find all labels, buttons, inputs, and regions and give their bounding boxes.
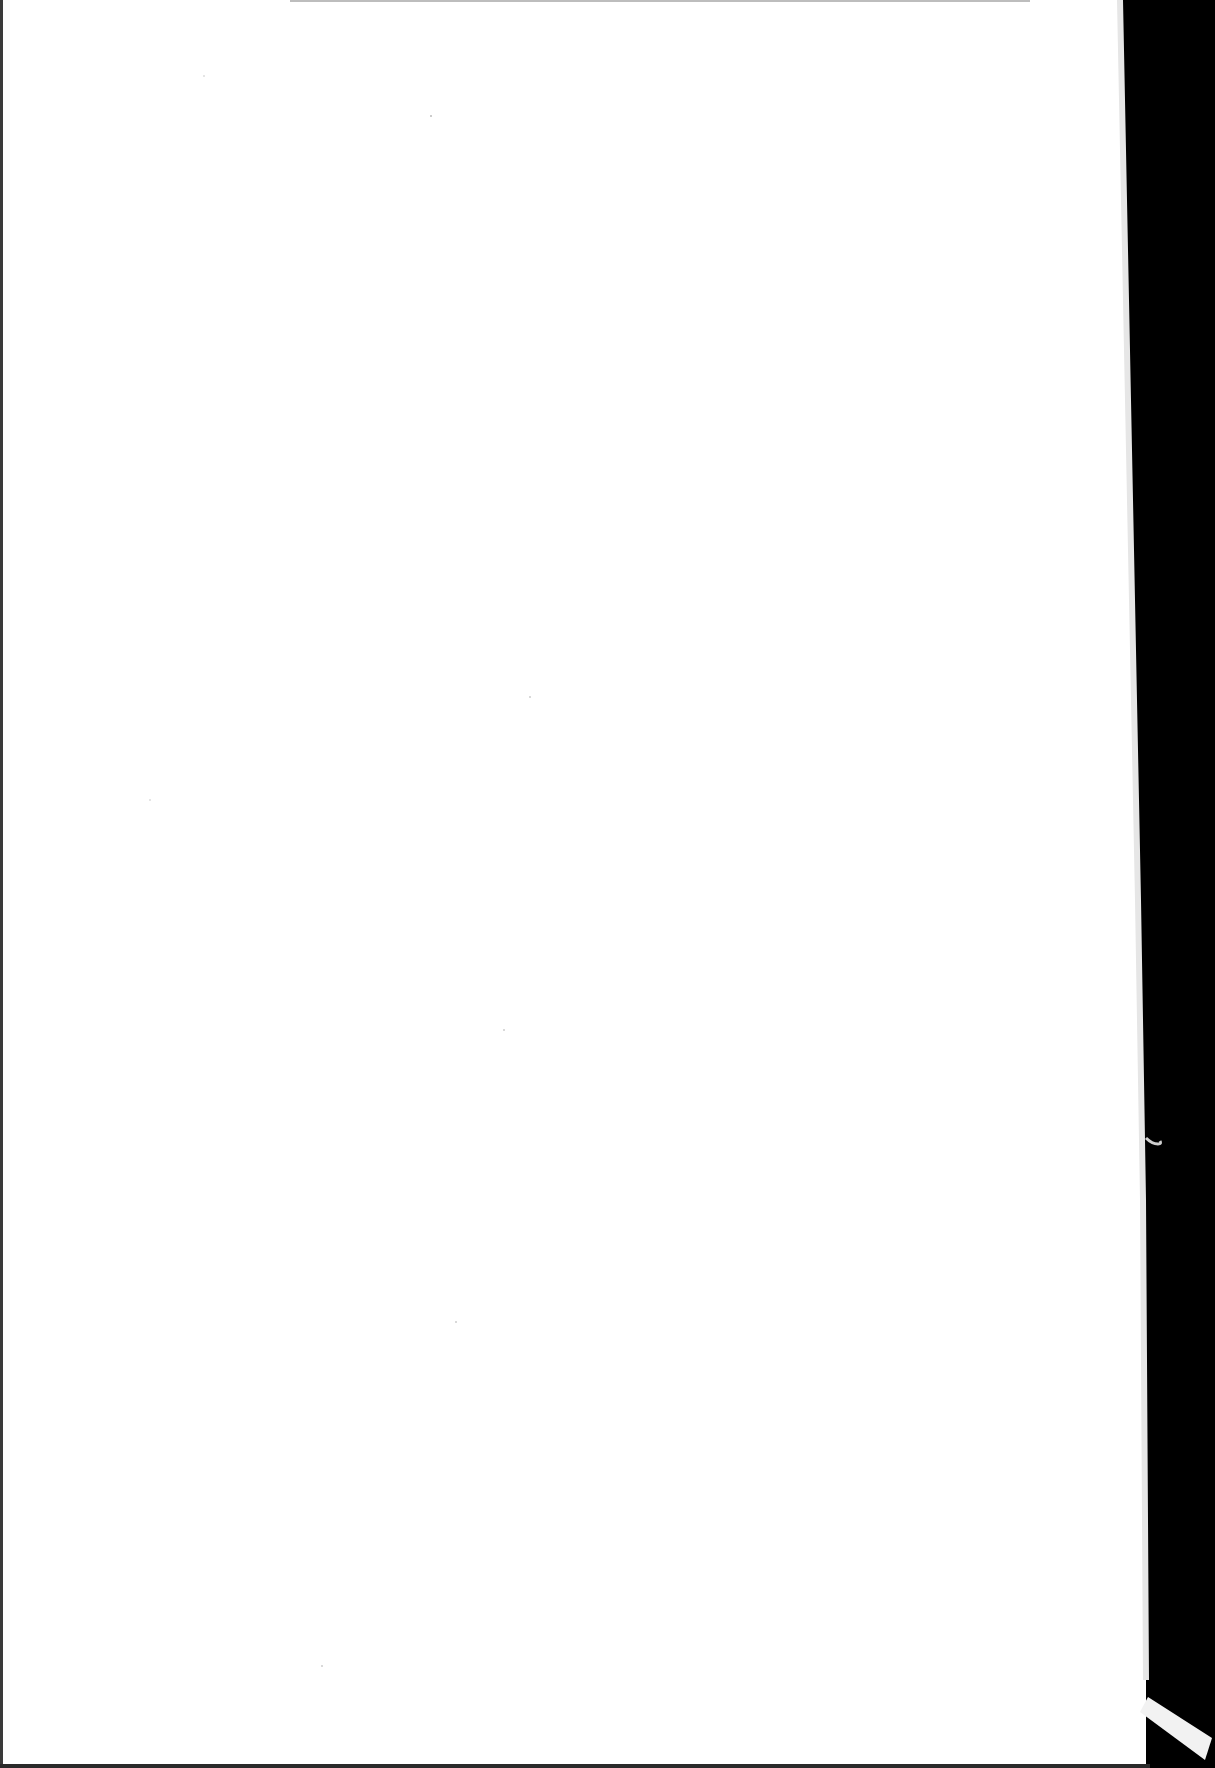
scan-speck <box>503 1029 505 1031</box>
blank-page <box>0 0 1215 1768</box>
scanned-document <box>0 0 1215 1768</box>
top-edge <box>290 0 1030 2</box>
left-border <box>0 0 3 1768</box>
scan-speck <box>203 75 205 77</box>
scan-speck <box>455 1321 457 1323</box>
paper-fiber-mark <box>1146 1138 1161 1144</box>
scan-speck <box>529 696 531 698</box>
scan-speck <box>430 115 432 117</box>
paper-tab <box>1140 1697 1212 1760</box>
scan-speck <box>321 1665 323 1667</box>
paper-sheet <box>0 0 1146 1768</box>
scan-speck <box>149 799 151 801</box>
bottom-border <box>0 1764 1150 1768</box>
